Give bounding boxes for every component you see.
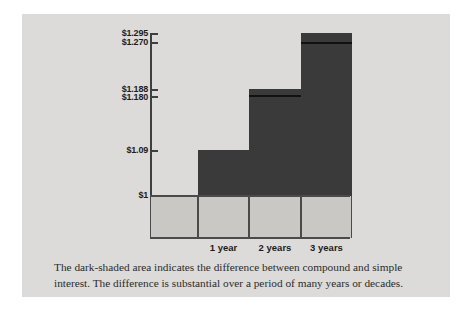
bar-compound-3-years	[301, 33, 352, 196]
chart-plot-area: $1.295 $1.270 $1.188 $1.180 $1.09 $1 1 y…	[22, 14, 450, 246]
y-axis-label-1: $1	[138, 190, 148, 200]
simple-interest-line-2-years	[249, 95, 301, 97]
baseline-rule	[150, 195, 350, 197]
y-tick-1180	[152, 96, 158, 98]
simple-interest-line-3-years	[301, 42, 352, 44]
bottom-rule	[150, 237, 350, 239]
x-axis-label-2-years: 2 years	[249, 242, 301, 253]
bar-principal-1-year	[198, 196, 249, 238]
y-axis-label-1180: $1.180	[122, 92, 148, 102]
caption-line-2: interest. The difference is substantial …	[54, 275, 426, 291]
x-axis-label-1-year: 1 year	[198, 242, 249, 253]
bar-principal-3-years	[301, 196, 352, 238]
bar-compound-2-years	[249, 89, 301, 196]
y-tick-1295	[152, 33, 158, 35]
bar-compound-1-year	[198, 150, 249, 196]
y-axis-label-1270: $1.270	[122, 37, 148, 47]
bar-principal-2-years	[249, 196, 301, 238]
principal-band-base	[150, 196, 198, 238]
y-tick-1188	[152, 89, 158, 91]
caption-line-1: The dark-shaded area indicates the diffe…	[54, 259, 426, 275]
y-tick-1270	[152, 42, 158, 44]
y-axis-label-109: $1.09	[126, 145, 148, 155]
x-axis-label-3-years: 3 years	[301, 242, 352, 253]
figure-panel: $1.295 $1.270 $1.188 $1.180 $1.09 $1 1 y…	[22, 14, 450, 297]
figure-caption: The dark-shaded area indicates the diffe…	[54, 259, 426, 291]
y-tick-109	[152, 150, 158, 152]
